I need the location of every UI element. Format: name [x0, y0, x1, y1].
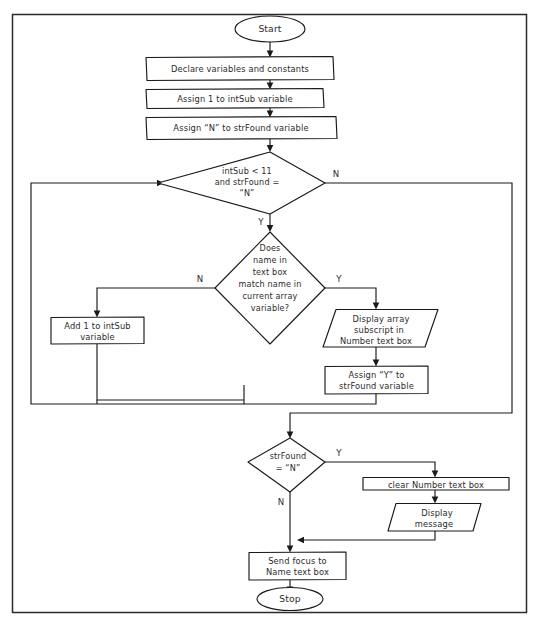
- node-start[interactable]: Start: [235, 16, 305, 42]
- branch-label-loop-yes: Y: [257, 217, 264, 227]
- node-declare-variables-label: Declare variables and constants: [171, 64, 309, 74]
- node-assign-intsub[interactable]: Assign 1 to intSub variable: [146, 89, 324, 109]
- node-send-focus-line1: Send focus to: [268, 556, 327, 566]
- node-found-condition-line1: strFound: [270, 451, 307, 461]
- node-assign-intsub-label: Assign 1 to intSub variable: [177, 94, 292, 104]
- node-assign-y-strfound-line1: Assign “Y” to: [348, 370, 404, 380]
- node-match-condition-line4: match name in: [238, 279, 301, 289]
- node-assign-strfound-label: Assign “N” to strFound variable: [173, 123, 308, 133]
- node-add-intsub-line1: Add 1 to intSub: [64, 321, 130, 331]
- node-start-label: Start: [258, 23, 281, 34]
- branch-label-found-no: N: [278, 497, 285, 507]
- node-match-condition-line5: current array: [243, 291, 298, 301]
- node-match-condition-line6: variable?: [251, 303, 289, 313]
- branch-label-found-yes: Y: [335, 448, 342, 458]
- node-send-focus-line2: Name text box: [266, 567, 329, 577]
- node-clear-number[interactable]: clear Number text box: [363, 478, 509, 491]
- node-loop-condition-line2: and strFound =: [215, 177, 280, 187]
- node-loop-condition-line3: “N”: [240, 188, 255, 198]
- node-match-condition-line1: Does: [260, 243, 281, 253]
- node-display-subscript-line2: subscript in: [354, 325, 404, 335]
- branch-label-loop-no: N: [333, 169, 340, 179]
- node-display-subscript[interactable]: Display array subscript in Number text b…: [323, 310, 438, 348]
- node-display-message[interactable]: Display message: [388, 504, 481, 532]
- node-stop[interactable]: Stop: [257, 588, 323, 611]
- node-add-intsub-line2: variable: [80, 332, 115, 342]
- node-match-condition[interactable]: Does name in text box match name in curr…: [215, 232, 325, 344]
- node-clear-number-label: clear Number text box: [388, 480, 484, 490]
- node-display-message-line1: Display: [421, 508, 453, 518]
- node-add-intsub[interactable]: Add 1 to intSub variable: [51, 317, 144, 344]
- node-loop-condition[interactable]: intSub < 11 and strFound = “N”: [158, 152, 325, 214]
- flowchart-page: Start Declare variables and constants As…: [0, 0, 538, 629]
- branch-label-match-no: N: [197, 274, 204, 284]
- branch-label-match-yes: Y: [335, 274, 342, 284]
- node-assign-strfound[interactable]: Assign “N” to strFound variable: [146, 117, 337, 140]
- node-loop-condition-line1: intSub < 11: [222, 166, 272, 176]
- node-display-subscript-line3: Number text box: [340, 336, 412, 346]
- node-declare-variables[interactable]: Declare variables and constants: [146, 57, 334, 81]
- node-assign-y-strfound[interactable]: Assign “Y” to strFound variable: [325, 366, 428, 394]
- node-found-condition[interactable]: strFound = “N”: [248, 438, 325, 492]
- flowchart-canvas: Start Declare variables and constants As…: [0, 0, 538, 629]
- node-display-message-line2: message: [415, 519, 453, 529]
- node-found-condition-line2: = “N”: [276, 463, 301, 473]
- node-assign-y-strfound-line2: strFound variable: [339, 381, 414, 391]
- node-display-subscript-line1: Display array: [353, 314, 410, 324]
- node-match-condition-line3: text box: [253, 267, 287, 277]
- node-stop-label: Stop: [279, 593, 301, 604]
- node-match-condition-line2: name in: [253, 255, 287, 265]
- node-send-focus[interactable]: Send focus to Name text box: [249, 552, 346, 580]
